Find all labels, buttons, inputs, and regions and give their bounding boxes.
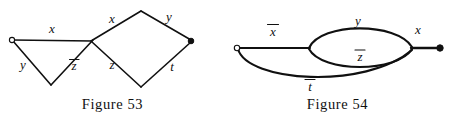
right-terminal-node bbox=[188, 38, 194, 44]
left-terminal-node bbox=[9, 37, 14, 42]
edge-t-lower-right bbox=[141, 42, 191, 87]
edge-x-top bbox=[13, 40, 92, 41]
edge-label-zbar: z bbox=[70, 58, 76, 73]
edge-label-y-upper-right: y bbox=[164, 9, 172, 24]
edge-label-t-lower-right: t bbox=[170, 59, 174, 74]
figure-54-caption: Figure 54 bbox=[225, 96, 450, 113]
edge-label-y-upper-arc: y bbox=[353, 13, 361, 28]
figure-54-diagram: x y z t x bbox=[225, 0, 450, 96]
edge-label-z-lower: z bbox=[108, 57, 114, 72]
edge-label-zbar-lower-arc: z bbox=[356, 49, 362, 64]
edge-y-lower-left bbox=[13, 41, 51, 85]
edge-label-y-lower-left: y bbox=[18, 57, 26, 72]
edge-y-upper-arc bbox=[309, 28, 412, 48]
figure-53-caption: Figure 53 bbox=[0, 96, 225, 113]
figure-plate: x y z z x y t Figure 53 bbox=[0, 0, 450, 122]
edge-label-xbar-left: x bbox=[269, 24, 276, 39]
figure-53: x y z z x y t Figure 53 bbox=[0, 0, 225, 122]
figure-53-diagram: x y z z x y t bbox=[0, 0, 225, 96]
edge-label-x-right: x bbox=[414, 22, 421, 37]
figure-54: x y z t x Figure 54 bbox=[225, 0, 450, 122]
left-terminal-node bbox=[234, 45, 239, 50]
edge-label-tbar-bottom-arc: t bbox=[308, 79, 312, 94]
edge-label-x-upper: x bbox=[108, 11, 115, 26]
edge-x-upper bbox=[91, 11, 141, 41]
edge-label-x-top: x bbox=[48, 21, 55, 36]
right-terminal-node bbox=[437, 45, 443, 51]
edge-z-lower bbox=[92, 42, 141, 87]
